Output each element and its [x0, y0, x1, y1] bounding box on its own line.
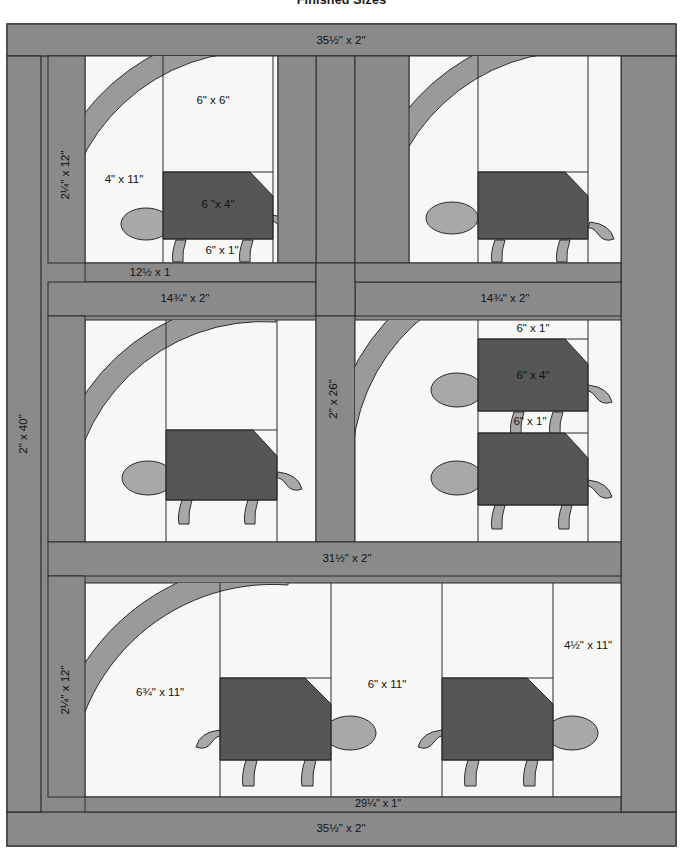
label-mid-right-foot: 6" x 1" — [513, 415, 546, 427]
label-top-border: 35½" x 2" — [316, 34, 365, 46]
label-shell: 6 "x 4" — [201, 198, 234, 210]
sash-12half-strip: 12½ x 1 — [85, 263, 316, 282]
turtle-shell — [442, 678, 553, 760]
sash-row1-row2-right: 14¾" x 2" — [355, 282, 621, 316]
left-sash-top: 2¼" x 12" — [48, 56, 85, 263]
label-sash-1434-left: 14¾" x 2" — [160, 292, 209, 304]
bottom-inner-sash: 29¼" x 1" — [85, 797, 621, 812]
label-left-sash-top: 2¼" x 12" — [59, 150, 71, 199]
label-bottom-left-patch: 6¾" x 11" — [136, 686, 184, 698]
label-bottom-inner-sash: 29¼" x 1" — [355, 797, 401, 809]
sash-row2-row3: 31½" x 2" — [48, 542, 621, 576]
turtle-shell — [478, 433, 588, 505]
label-bottom-right-patch: 4½" x 11" — [564, 639, 612, 651]
turtle-shell — [166, 430, 277, 500]
right-border-strip — [621, 56, 676, 812]
label-left-sash-bottom: 2¼" x 12" — [59, 665, 71, 714]
center-sash-row1 — [316, 56, 355, 263]
turtle-head — [431, 461, 483, 495]
left-sash-bottom: 2¼" x 12" — [48, 576, 85, 797]
turtle-shell — [478, 172, 588, 239]
label-sash-31half: 31½" x 2" — [322, 552, 371, 564]
label-mid-right-neck: 6" x 1" — [516, 322, 549, 334]
label-left-strip: 4" x 11" — [105, 173, 144, 185]
label-bottom-border: 35½" x 2" — [316, 822, 365, 834]
quilt-diagram-page: Finished Sizes — [0, 0, 683, 856]
quilt-layout-svg: 6" x 6" 4" x 11" 6 "x 4" 6" x 1" 2½" x 1… — [0, 0, 683, 856]
turtle-head — [426, 202, 478, 234]
row1-col1-right-sash — [278, 56, 316, 263]
turtle-head — [324, 716, 376, 750]
label-bottom-mid-patch: 6" x 11" — [368, 678, 407, 690]
label-mid-right-shell: 6" x 4" — [516, 369, 549, 381]
turtle-head — [546, 716, 598, 750]
label-sash-1434-right: 14¾" x 2" — [480, 292, 529, 304]
turtle-shell — [220, 678, 331, 760]
turtle-head — [431, 373, 483, 407]
label-top-patch: 6" x 6" — [196, 94, 229, 106]
sash-intersection — [316, 263, 355, 316]
center-sash-row2: 2" x 26" — [316, 316, 355, 542]
label-foot-strip: 6" x 1" — [205, 244, 238, 256]
block-row2-col1 — [48, 300, 316, 542]
sash-upper-right — [355, 263, 621, 282]
row1-col2-left-sash — [355, 56, 409, 263]
left-sash-middle — [48, 316, 85, 542]
sash-row1-row2-left: 14¾" x 2" — [48, 282, 316, 316]
block-row3: 6¾" x 11" 6" x 11" 4½" x 11" — [48, 561, 621, 797]
label-left-border: 2" x 40" — [17, 414, 29, 454]
label-sash-12half: 12½ x 1 — [130, 266, 171, 278]
label-center-sash: 2" x 26" — [327, 379, 339, 419]
